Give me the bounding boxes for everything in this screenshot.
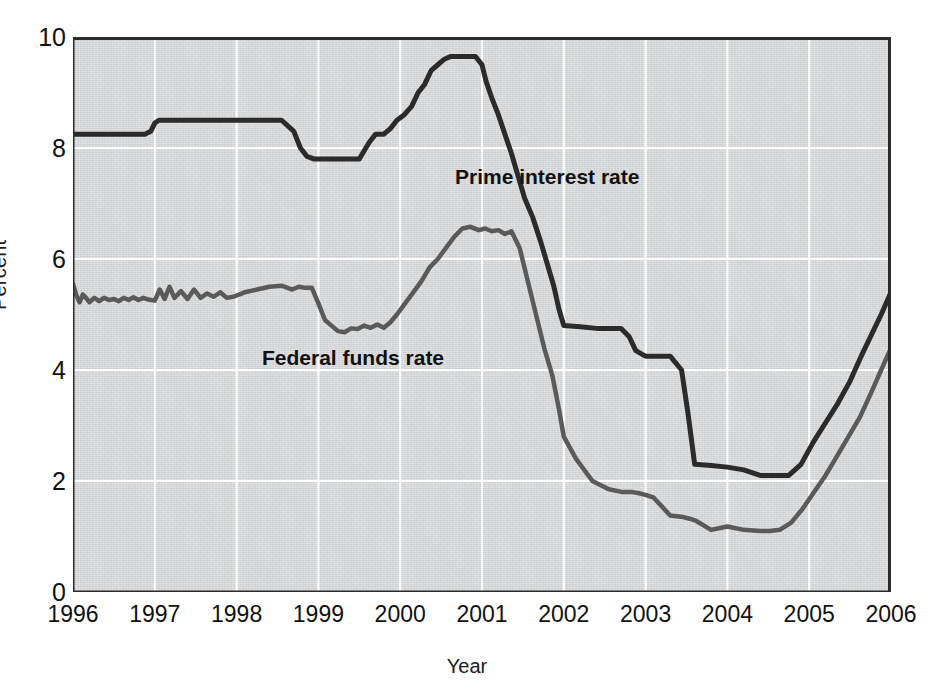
plot-area: Prime interest rate Federal funds rate [73, 37, 891, 592]
x-tick-label: 2000 [375, 601, 426, 628]
y-axis-title: Percent [0, 240, 11, 310]
x-tick-label: 2001 [456, 601, 507, 628]
x-tick-label: 1998 [211, 601, 262, 628]
x-tick-label: 2003 [620, 601, 671, 628]
x-tick-label: 2004 [702, 601, 753, 628]
y-tick-label: 6 [6, 247, 66, 272]
prime-rate-annotation: Prime interest rate [455, 165, 639, 189]
y-tick-label: 8 [6, 136, 66, 161]
x-tick-label: 2005 [784, 601, 835, 628]
interest-rate-chart-figure: 10 8 6 4 2 0 Percent Prime interest rate… [0, 0, 934, 690]
x-axis-title: Year [0, 655, 934, 678]
x-tick-label: 1999 [293, 601, 344, 628]
fed-funds-rate-annotation: Federal funds rate [262, 346, 444, 370]
x-tick-label: 1997 [129, 601, 180, 628]
plot-svg [73, 37, 891, 592]
x-tick-label: 2002 [538, 601, 589, 628]
x-tick-label: 2006 [865, 601, 916, 628]
x-tick-label: 1996 [47, 601, 98, 628]
y-axis-tick-labels: 10 8 6 4 2 0 [0, 0, 66, 690]
y-tick-label: 2 [6, 469, 66, 494]
y-tick-label: 10 [6, 25, 66, 50]
y-tick-label: 4 [6, 358, 66, 383]
